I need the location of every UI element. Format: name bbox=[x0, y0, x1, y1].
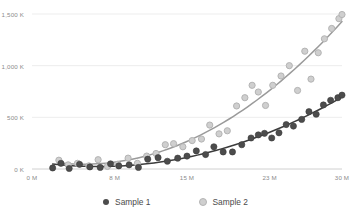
legend-label-sample-2: Sample 2 bbox=[213, 197, 248, 207]
data-point[interactable] bbox=[66, 165, 72, 171]
data-point[interactable] bbox=[229, 149, 235, 155]
legend-marker-sample-1 bbox=[103, 199, 109, 205]
plot-area bbox=[0, 0, 351, 211]
legend-marker-sample-2 bbox=[199, 198, 207, 206]
data-point[interactable] bbox=[294, 87, 300, 93]
data-point[interactable] bbox=[234, 103, 240, 109]
data-point[interactable] bbox=[339, 11, 345, 17]
data-point[interactable] bbox=[308, 76, 314, 82]
data-point[interactable] bbox=[198, 136, 204, 142]
data-point[interactable] bbox=[276, 130, 282, 136]
scatter-chart: 0 K500 K1,000 K1,500 K 0 M8 M15 M23 M30 … bbox=[0, 0, 351, 211]
data-point[interactable] bbox=[97, 164, 103, 170]
data-point[interactable] bbox=[125, 155, 131, 161]
data-point[interactable] bbox=[224, 128, 230, 134]
data-point[interactable] bbox=[286, 63, 292, 69]
chart-legend: Sample 1 Sample 2 bbox=[0, 197, 351, 207]
data-point[interactable] bbox=[95, 157, 101, 163]
data-point[interactable] bbox=[306, 109, 312, 115]
data-point[interactable] bbox=[315, 50, 321, 56]
data-point[interactable] bbox=[107, 161, 113, 167]
data-point[interactable] bbox=[262, 102, 268, 108]
data-point[interactable] bbox=[211, 144, 217, 150]
data-point[interactable] bbox=[184, 153, 190, 159]
data-point[interactable] bbox=[220, 149, 226, 155]
data-point[interactable] bbox=[261, 130, 267, 136]
x-tick-label: 23 M bbox=[262, 174, 276, 181]
data-point[interactable] bbox=[203, 151, 209, 157]
data-point[interactable] bbox=[328, 97, 334, 103]
data-point[interactable] bbox=[270, 82, 276, 88]
data-point[interactable] bbox=[278, 73, 284, 79]
data-point[interactable] bbox=[87, 164, 93, 170]
x-tick-label: 30 M bbox=[335, 174, 349, 181]
data-point[interactable] bbox=[255, 89, 261, 95]
data-point[interactable] bbox=[164, 158, 170, 164]
data-point[interactable] bbox=[242, 95, 248, 101]
y-tick-label: 500 K bbox=[0, 114, 24, 121]
x-tick-label: 15 M bbox=[180, 174, 194, 181]
data-point[interactable] bbox=[313, 111, 319, 117]
data-point[interactable] bbox=[116, 163, 122, 169]
legend-label-sample-1: Sample 1 bbox=[115, 197, 150, 207]
data-point[interactable] bbox=[193, 148, 199, 154]
data-point[interactable] bbox=[329, 25, 335, 31]
legend-item-sample-1[interactable]: Sample 1 bbox=[103, 197, 150, 207]
data-point[interactable] bbox=[290, 123, 296, 129]
data-point[interactable] bbox=[162, 142, 168, 148]
data-point[interactable] bbox=[189, 137, 195, 143]
data-point[interactable] bbox=[283, 121, 289, 127]
data-point[interactable] bbox=[302, 48, 308, 54]
series-2-points bbox=[56, 11, 345, 169]
y-tick-label: 1,000 K bbox=[0, 62, 24, 69]
data-point[interactable] bbox=[155, 155, 161, 161]
data-point[interactable] bbox=[216, 131, 222, 137]
data-point[interactable] bbox=[321, 36, 327, 42]
data-point[interactable] bbox=[170, 141, 176, 147]
data-point[interactable] bbox=[339, 92, 345, 98]
data-point[interactable] bbox=[299, 116, 305, 122]
data-point[interactable] bbox=[76, 161, 82, 167]
data-point[interactable] bbox=[207, 122, 213, 128]
series-1-points bbox=[50, 92, 346, 172]
data-point[interactable] bbox=[269, 135, 275, 141]
x-tick-label: 0 M bbox=[27, 174, 38, 181]
data-point[interactable] bbox=[135, 164, 141, 170]
data-point[interactable] bbox=[50, 165, 56, 171]
data-point[interactable] bbox=[180, 144, 186, 150]
data-point[interactable] bbox=[248, 135, 254, 141]
data-point[interactable] bbox=[175, 155, 181, 161]
y-tick-label: 0 K bbox=[0, 166, 24, 173]
x-tick-label: 8 M bbox=[109, 174, 120, 181]
data-point[interactable] bbox=[58, 160, 64, 166]
trendline-sample-1 bbox=[53, 97, 342, 166]
legend-item-sample-2[interactable]: Sample 2 bbox=[199, 197, 248, 207]
series-1-trendline-group bbox=[53, 97, 342, 166]
data-point[interactable] bbox=[145, 156, 151, 162]
data-point[interactable] bbox=[239, 142, 245, 148]
y-tick-label: 1,500 K bbox=[0, 11, 24, 18]
data-point[interactable] bbox=[126, 162, 132, 168]
data-point[interactable] bbox=[255, 132, 261, 138]
data-point[interactable] bbox=[249, 82, 255, 88]
data-point[interactable] bbox=[320, 102, 326, 108]
